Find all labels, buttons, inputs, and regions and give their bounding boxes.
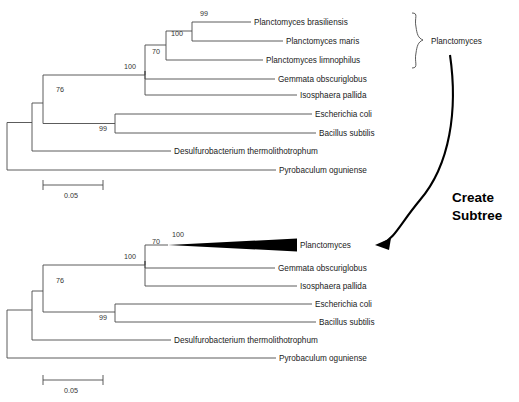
branch-root	[7, 310, 276, 358]
tip-label: Escherichia coli	[315, 300, 372, 309]
tip-label: Gemmata obscuriglobus	[278, 264, 367, 273]
tip-label: Isosphaera pallida	[300, 91, 367, 100]
scale-bar	[43, 375, 103, 385]
branch-node-76	[43, 265, 76, 312]
clade-bracket-label: Planctomyces	[431, 37, 482, 46]
branch-node-100-planctomycetes	[65, 71, 297, 95]
arrow-head-icon	[375, 238, 391, 250]
bootstrap-value: 100	[124, 62, 136, 71]
tip-label: Isosphaera pallida	[300, 282, 367, 291]
branch-node-100-planctomycetes	[65, 261, 297, 286]
branch-node-76	[43, 75, 76, 124]
scale-bar-label: 0.05	[64, 386, 78, 395]
tip-label: Escherichia coli	[315, 110, 372, 119]
collapsed-clade-label: Planctomyces	[300, 241, 351, 250]
tip-label: Desulfurobacterium thermolithotrophum	[174, 147, 318, 156]
branch-node-70	[145, 45, 275, 79]
tip-label: Desulfurobacterium thermolithotrophum	[174, 336, 318, 345]
bootstrap-value: 99	[99, 124, 107, 133]
clade-bracket-group: Planctomyces	[412, 13, 482, 68]
bootstrap-value: 100	[171, 29, 183, 38]
tip-label: Bacillus subtilis	[319, 129, 375, 138]
tip-label: Planctomyces maris	[286, 37, 359, 46]
create-subtree-label-line1: Create	[452, 190, 495, 205]
bootstrap-value: 70	[152, 47, 160, 56]
bootstrap-value: 100	[172, 230, 184, 239]
collapsed-clade-triangle[interactable]	[168, 239, 297, 252]
tip-label: Planctomyces limnophilus	[266, 56, 360, 65]
top-tree: Planctomyces brasiliensis Planctomyces m…	[7, 9, 375, 200]
tip-label: Planctomyces brasiliensis	[254, 18, 348, 27]
bootstrap-value: 99	[200, 9, 208, 18]
tip-label: Pyrobaculum oguniense	[279, 354, 367, 363]
scale-bar	[43, 180, 103, 190]
bootstrap-value: 76	[56, 276, 64, 285]
scale-bar-label: 0.05	[64, 191, 78, 200]
tip-label: Gemmata obscuriglobus	[278, 75, 367, 84]
create-subtree-label-line2: Subtree	[452, 208, 503, 223]
curly-brace-icon	[412, 13, 423, 68]
tip-label: Pyrobaculum oguniense	[279, 166, 367, 175]
branch-node-99	[76, 304, 316, 322]
branch-node-99	[76, 114, 316, 133]
bootstrap-value: 70	[152, 237, 160, 246]
figure-canvas: Planctomyces brasiliensis Planctomyces m…	[0, 0, 519, 402]
bootstrap-value: 100	[124, 252, 136, 261]
bottom-tree: Planctomyces Gemmata obscuriglobus Isosp…	[7, 230, 375, 395]
create-subtree-arrow	[375, 55, 453, 250]
tip-label: Bacillus subtilis	[319, 318, 375, 327]
bootstrap-value: 99	[99, 313, 107, 322]
arrow-curve	[382, 55, 453, 244]
bootstrap-value: 76	[56, 85, 64, 94]
